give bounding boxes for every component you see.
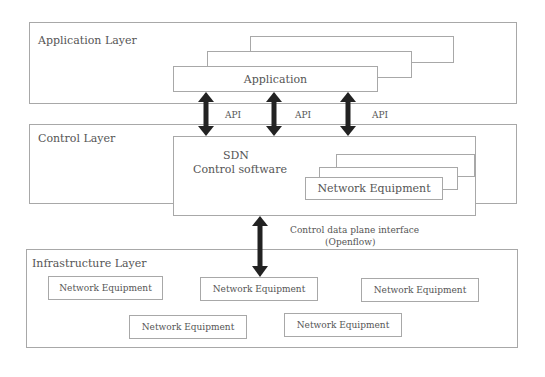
double-arrow-icon	[198, 92, 356, 277]
arrows-layer	[0, 0, 545, 377]
